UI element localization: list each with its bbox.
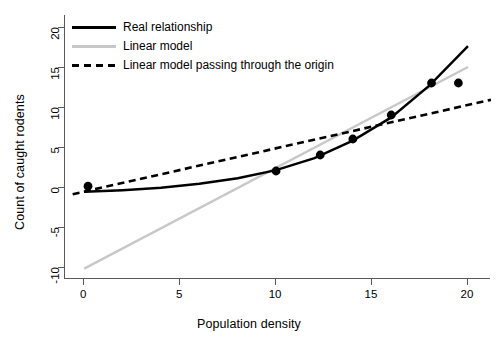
y-tick-label: 20: [49, 27, 61, 40]
legend-item-linear-model: Linear model: [72, 37, 334, 55]
legend: Real relationship Linear model Linear mo…: [72, 18, 334, 75]
data-point: [454, 79, 463, 88]
legend-label: Real relationship: [123, 20, 212, 34]
x-tick-label: 15: [365, 288, 378, 300]
y-tick-label: 15: [49, 67, 61, 80]
x-tick-label: 10: [269, 288, 282, 300]
x-axis-title: Population density: [0, 317, 498, 331]
x-tick-label: 20: [461, 288, 474, 300]
y-tick-label: 0: [49, 187, 61, 193]
legend-swatch-solid-dark-icon: [72, 21, 116, 33]
x-tick-mark: [179, 279, 180, 285]
y-tick-label: 10: [49, 107, 61, 120]
y-axis-title: Count of caught rodents: [13, 42, 27, 282]
x-tick-mark: [275, 279, 276, 285]
y-tick-label: 5: [49, 147, 61, 153]
x-tick-mark: [371, 279, 372, 285]
data-point: [84, 182, 93, 191]
data-point: [348, 135, 357, 144]
legend-swatch-dashed-dark-icon: [72, 59, 116, 71]
data-point: [316, 151, 325, 160]
chart-container: 05101520-10-505101520 Real relationship …: [0, 0, 498, 337]
series-linear-model-origin: [73, 100, 491, 194]
legend-label: Linear model: [123, 39, 192, 53]
origin-model-line: [73, 100, 491, 194]
data-point: [387, 111, 396, 120]
data-point: [272, 167, 281, 176]
x-tick-label: 5: [176, 288, 182, 300]
y-tick-label: -10: [49, 267, 61, 284]
data-point: [427, 79, 436, 88]
data-points-group: [84, 79, 463, 191]
y-tick-label: -5: [49, 227, 61, 237]
x-tick-label: 0: [80, 288, 86, 300]
legend-swatch-solid-gray-icon: [72, 40, 116, 52]
legend-label: Linear model passing through the origin: [123, 58, 334, 72]
legend-item-origin-model: Linear model passing through the origin: [72, 56, 334, 74]
legend-item-real-relationship: Real relationship: [72, 18, 334, 36]
x-tick-mark: [467, 279, 468, 285]
x-tick-mark: [83, 279, 84, 285]
